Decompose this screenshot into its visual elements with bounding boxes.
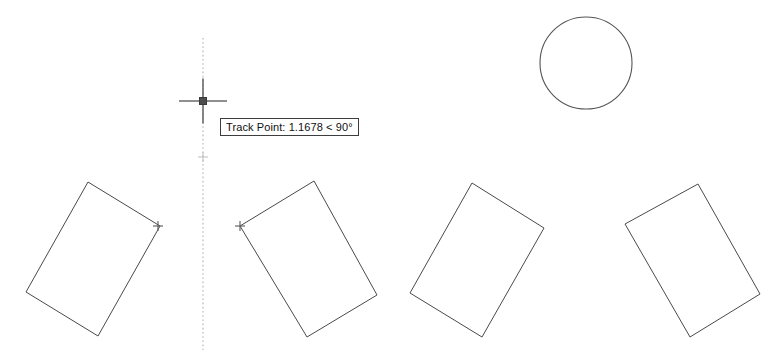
rectangle-1[interactable] bbox=[26, 182, 160, 336]
snap-marker-rect2-left bbox=[235, 221, 245, 231]
rectangle-3[interactable] bbox=[410, 183, 544, 337]
cursor-pickbox bbox=[200, 98, 207, 105]
crosshair-cursor[interactable] bbox=[179, 79, 227, 124]
circle-shape[interactable] bbox=[540, 17, 632, 109]
rectangle-4[interactable] bbox=[625, 184, 760, 337]
tracked-base-point-marker bbox=[198, 152, 208, 162]
drawing-area[interactable] bbox=[0, 0, 781, 363]
rectangle-2[interactable] bbox=[240, 181, 377, 337]
track-point-tooltip-label: Track Point: 1.1678 < 90° bbox=[226, 122, 353, 133]
cad-drawing-canvas[interactable]: Track Point: 1.1678 < 90° bbox=[0, 0, 781, 363]
track-point-tooltip: Track Point: 1.1678 < 90° bbox=[220, 118, 359, 136]
